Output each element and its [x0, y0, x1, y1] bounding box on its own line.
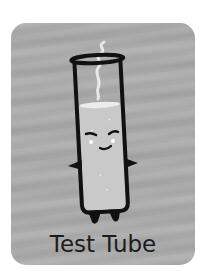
- right-eye: [111, 139, 115, 143]
- card-title: Test Tube: [11, 231, 195, 257]
- steam-icon: [97, 42, 104, 99]
- left-eye: [89, 140, 93, 144]
- liquid: [79, 102, 127, 211]
